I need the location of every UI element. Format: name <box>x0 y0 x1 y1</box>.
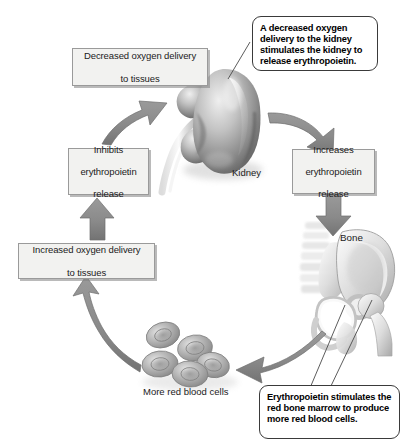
box-increased-oxygen-line2: to tissues <box>30 267 144 278</box>
callout-bone-marrow-stimulation[interactable]: Erythropoietin stimulates the red bone m… <box>259 385 400 439</box>
callout-leader-lines <box>228 42 250 79</box>
callout-kidney-stimulation[interactable]: A decreased oxygen delivery to the kidne… <box>252 16 378 71</box>
box-increases-line1: Increases <box>302 144 364 155</box>
label-more-red-blood-cells: More red blood cells <box>143 386 229 397</box>
arrow-bone-to-red-blood-cells <box>236 331 326 383</box>
label-kidney: Kidney <box>232 167 261 178</box>
arrow-red-blood-cells-to-increased-oxygen <box>73 276 141 372</box>
box-inhibits-line2: erythropoietin <box>77 166 139 177</box>
box-decreased-oxygen-line2: to tissues <box>81 73 199 84</box>
box-decreased-oxygen-delivery[interactable]: Decreased oxygen delivery to tissues <box>72 48 208 86</box>
arrow-increased-oxygen-to-inhibits <box>80 198 114 240</box>
illustration-red-blood-cells <box>141 318 238 391</box>
diagram-canvas: Decreased oxygen delivery to tissues Inh… <box>0 0 408 448</box>
box-increases-line2: erythropoietin <box>302 166 364 177</box>
box-inhibits-erythropoietin-release[interactable]: Inhibits erythropoietin release <box>68 148 149 195</box>
arrow-inhibits-to-kidney <box>102 101 167 145</box>
label-bone: Bone <box>340 232 363 243</box>
callout-kidney-text: A decreased oxygen delivery to the kidne… <box>260 23 362 66</box>
box-inhibits-line3: release <box>77 188 139 199</box>
arrow-increases-release-to-bone <box>316 194 351 236</box>
illustration-pelvis-bone <box>300 222 395 388</box>
box-decreased-oxygen-line1: Decreased oxygen delivery <box>81 50 199 61</box>
box-inhibits-line1: Inhibits <box>77 144 139 155</box>
box-increases-line3: release <box>302 188 364 199</box>
box-increases-erythropoietin-release[interactable]: Increases erythropoietin release <box>292 149 375 194</box>
box-increased-oxygen-delivery[interactable]: Increased oxygen delivery to tissues <box>18 243 155 279</box>
callout-marrow-text: Erythropoietin stimulates the red bone m… <box>267 392 391 424</box>
box-increased-oxygen-line1: Increased oxygen delivery <box>30 244 144 255</box>
